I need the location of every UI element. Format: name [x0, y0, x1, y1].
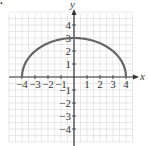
y-tick-label: 4 [66, 19, 72, 31]
x-axis-arrow-icon [133, 75, 139, 80]
y-tick-label: −4 [59, 123, 71, 135]
y-tick-label: −2 [59, 97, 71, 109]
x-tick-label: −3 [29, 78, 41, 90]
x-tick-label: −2 [42, 78, 54, 90]
y-tick-label: 1 [66, 58, 72, 70]
y-axis-label: y [69, 0, 75, 10]
x-tick-label: 3 [110, 78, 116, 90]
graph: −4−3−2−112344321−1−2−3−4 x y . [0, 0, 148, 146]
x-tick-label: 1 [84, 78, 90, 90]
y-tick-label: −3 [59, 110, 71, 122]
y-tick-label: −1 [59, 84, 71, 96]
figure-label: . [0, 0, 3, 6]
x-tick-label: −4 [16, 78, 28, 90]
y-tick-label: 2 [66, 45, 72, 57]
x-tick-label: 2 [97, 78, 103, 90]
x-axis-label: x [139, 70, 145, 82]
x-tick-label: 4 [123, 78, 129, 90]
